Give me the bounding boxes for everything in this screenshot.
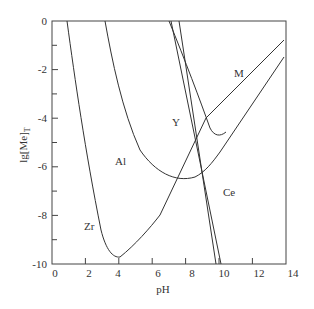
curve-y (171, 21, 221, 264)
y-axis-title: lg[Me]T (17, 127, 32, 163)
svg-text:-8: -8 (38, 209, 48, 221)
svg-text:Zr: Zr (84, 220, 95, 232)
svg-text:lg[Me]T: lg[Me]T (17, 127, 32, 163)
x-tick-labels: 0 2 4 6 8 10 12 14 (52, 267, 299, 279)
svg-text:-2: -2 (38, 63, 47, 75)
svg-text:8: 8 (189, 267, 195, 279)
curve-al (105, 21, 284, 179)
svg-text:M: M (234, 67, 244, 79)
svg-text:-6: -6 (38, 160, 48, 172)
y-ticks (52, 45, 58, 239)
svg-text:12: 12 (254, 267, 265, 279)
svg-text:6: 6 (155, 267, 161, 279)
y-tick-labels: 0 -2 -4 -6 -8 -10 (32, 15, 47, 270)
svg-text:Y: Y (172, 116, 180, 128)
svg-text:4: 4 (115, 267, 121, 279)
svg-text:0: 0 (52, 267, 58, 279)
svg-text:14: 14 (288, 267, 300, 279)
curve-ce (179, 21, 216, 264)
x-ticks (85, 258, 252, 264)
svg-text:-10: -10 (32, 258, 47, 270)
svg-text:0: 0 (42, 15, 48, 27)
svg-text:Ce: Ce (223, 186, 235, 198)
svg-text:2: 2 (86, 267, 92, 279)
solubility-chart: 0 2 4 6 8 10 12 14 0 -2 -4 -6 -8 -10 pH … (0, 0, 314, 309)
svg-text:-4: -4 (38, 112, 48, 124)
svg-text:Al: Al (115, 155, 126, 167)
curves (67, 21, 284, 264)
curve-zr (67, 21, 284, 257)
x-axis-title: pH (156, 283, 170, 295)
svg-text:10: 10 (219, 267, 231, 279)
